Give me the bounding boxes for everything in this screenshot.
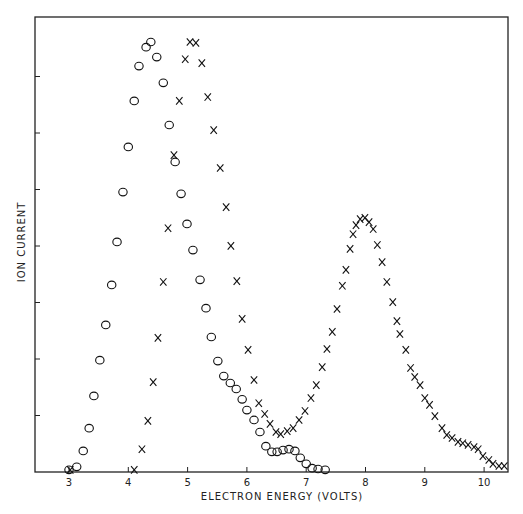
data-point-cross	[490, 460, 496, 467]
data-point-circle	[177, 190, 185, 198]
data-point-cross	[374, 241, 380, 248]
data-point-cross	[357, 215, 363, 222]
data-point-cross	[455, 438, 461, 445]
data-point-cross	[234, 277, 240, 284]
x-axis-title: ELECTRON ENERGY (VOLTS)	[201, 491, 363, 502]
data-point-cross	[193, 39, 199, 46]
data-point-cross	[150, 378, 156, 385]
data-point-cross	[165, 224, 171, 231]
data-point-cross	[199, 59, 205, 66]
data-point-cross	[460, 439, 466, 446]
data-point-cross	[160, 278, 166, 285]
data-point-cross	[155, 334, 161, 341]
data-point-cross	[313, 381, 319, 388]
data-point-circle	[147, 38, 155, 46]
data-point-circle	[130, 97, 138, 105]
data-point-cross	[239, 315, 245, 322]
data-point-cross	[256, 400, 262, 407]
data-point-circle	[165, 121, 173, 129]
data-point-circle	[85, 424, 93, 432]
x-tick-label: 5	[184, 477, 190, 488]
ion-current-chart: 345678910 ELECTRON ENERGY (VOLTS) ION CU…	[0, 0, 523, 514]
data-point-cross	[324, 345, 330, 352]
data-point-cross	[422, 394, 428, 401]
data-point-circle	[308, 464, 316, 472]
data-point-circle	[256, 428, 264, 436]
data-point-circle	[207, 333, 215, 341]
data-point-circle	[214, 357, 222, 365]
data-point-cross	[394, 317, 400, 324]
data-point-cross	[223, 203, 229, 210]
data-point-cross	[187, 38, 193, 45]
data-point-cross	[432, 412, 438, 419]
y-axis-ticks	[35, 77, 40, 416]
data-point-cross	[205, 93, 211, 100]
x-tick-label: 3	[66, 477, 72, 488]
data-point-circle	[102, 321, 110, 329]
data-point-cross	[353, 221, 359, 228]
data-point-cross	[334, 305, 340, 312]
data-point-cross	[284, 427, 290, 434]
data-point-circle	[302, 460, 310, 468]
data-point-circle	[243, 406, 251, 414]
data-point-circle	[159, 79, 167, 87]
data-point-circle	[285, 445, 293, 453]
data-point-circle	[189, 246, 197, 254]
data-point-cross	[426, 401, 432, 408]
x-tick-label: 7	[303, 477, 309, 488]
series-circles	[65, 38, 330, 473]
data-point-circle	[196, 276, 204, 284]
plot-frame	[35, 17, 508, 472]
data-point-cross	[171, 151, 177, 158]
data-point-circle	[232, 385, 240, 393]
data-point-circle	[171, 158, 179, 166]
data-point-cross	[139, 446, 145, 453]
data-point-cross	[319, 363, 325, 370]
data-point-cross	[350, 231, 356, 238]
data-point-circle	[96, 356, 104, 364]
data-point-cross	[290, 424, 296, 431]
data-point-circle	[268, 448, 276, 456]
data-point-cross	[486, 456, 492, 463]
data-point-cross	[480, 452, 486, 459]
data-point-circle	[79, 447, 87, 455]
data-point-cross	[384, 278, 390, 285]
data-point-cross	[390, 298, 396, 305]
data-point-circle	[124, 143, 132, 151]
data-point-cross	[412, 373, 418, 380]
data-point-circle	[135, 62, 143, 70]
x-tick-label: 6	[244, 477, 250, 488]
data-point-cross	[296, 416, 302, 423]
data-point-circle	[238, 396, 246, 404]
data-point-cross	[370, 225, 376, 232]
data-point-cross	[465, 441, 471, 448]
data-point-cross	[366, 218, 372, 225]
data-point-cross	[397, 330, 403, 337]
data-point-cross	[176, 97, 182, 104]
data-point-cross	[496, 462, 502, 469]
data-point-circle	[142, 43, 150, 51]
data-point-cross	[182, 56, 188, 63]
data-point-cross	[308, 394, 314, 401]
data-point-circle	[107, 281, 115, 289]
data-point-cross	[439, 424, 445, 431]
data-point-circle	[119, 188, 127, 196]
data-point-cross	[407, 364, 413, 371]
x-tick-label: 4	[125, 477, 131, 488]
data-point-cross	[343, 266, 349, 273]
data-point-circle	[73, 463, 81, 471]
x-tick-label: 10	[478, 477, 491, 488]
data-point-cross	[145, 417, 151, 424]
x-axis-ticks: 345678910	[66, 467, 491, 488]
data-point-circle	[291, 447, 299, 455]
data-point-cross	[339, 282, 345, 289]
series-crosses	[67, 38, 507, 473]
data-point-cross	[245, 346, 251, 353]
data-point-cross	[347, 245, 353, 252]
data-point-circle	[250, 416, 258, 424]
data-point-circle	[183, 220, 191, 228]
data-point-cross	[379, 258, 385, 265]
data-point-circle	[113, 238, 121, 246]
data-point-circle	[220, 372, 228, 380]
data-point-cross	[417, 381, 423, 388]
